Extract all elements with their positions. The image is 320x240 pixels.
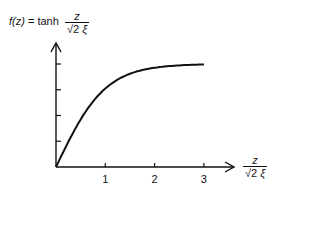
- sqrt-two: √2: [245, 167, 260, 179]
- xi-symbol: ξ: [260, 167, 265, 179]
- x-tick-label: 3: [201, 173, 207, 185]
- x-axis-label: z √2 ξ: [240, 154, 267, 179]
- fraction-numerator: z: [243, 154, 267, 167]
- fraction-denominator: √2 ξ: [243, 167, 267, 179]
- y-ticks: [56, 64, 61, 141]
- x-tick-label: 1: [102, 173, 108, 185]
- x-axis-label-fraction: z √2 ξ: [243, 154, 267, 179]
- x-tick-label: 2: [152, 173, 158, 185]
- tanh-curve: [56, 65, 204, 168]
